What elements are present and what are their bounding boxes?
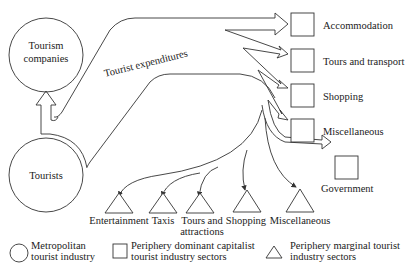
legend-metropolitan-1: Metropolitan xyxy=(31,240,87,251)
legend-dominant-2: tourist industry sectors xyxy=(131,251,227,262)
tourism-flow-diagram: Tourism companies Tourists Tourist expen… xyxy=(0,0,413,276)
marginal-sectors: Entertainment Taxis Tours and attraction… xyxy=(89,189,330,237)
legend-triangle-icon xyxy=(266,246,282,258)
marginal-shopping: Shopping xyxy=(226,215,267,226)
shopping-triangle xyxy=(233,190,261,212)
sector-shopping: Shopping xyxy=(323,91,364,102)
government-label: Government xyxy=(321,183,374,194)
marginal-entertainment: Entertainment xyxy=(89,215,149,226)
sector-accommodation: Accommodation xyxy=(323,20,394,31)
taxis-triangle xyxy=(149,193,177,213)
marginal-sector-arrows xyxy=(119,110,296,196)
tourism-companies-label-1: Tourism xyxy=(29,40,64,51)
legend-dominant-1: Periphery dominant capitalist xyxy=(131,240,255,251)
government-box xyxy=(335,156,358,179)
tourists-label: Tourists xyxy=(29,170,63,181)
shopping-box xyxy=(291,84,314,107)
legend-circle-icon xyxy=(10,244,28,262)
tourism-companies-node: Tourism companies xyxy=(9,18,83,92)
legend-marginal-1: Periphery marginal tourist xyxy=(290,240,400,251)
tours-transport-box xyxy=(291,49,314,72)
miscellaneous-triangle xyxy=(286,189,314,212)
expenditure-flow-upper: Tourist expenditures xyxy=(54,13,288,167)
sector-miscellaneous: Miscellaneous xyxy=(323,126,384,137)
miscellaneous-box xyxy=(291,119,314,142)
marginal-tours-attractions-1: Tours and xyxy=(181,215,223,226)
accommodation-box xyxy=(291,13,314,36)
dominant-sector-arrows xyxy=(225,30,331,149)
legend-square-icon xyxy=(113,244,127,258)
marginal-miscellaneous: Miscellaneous xyxy=(270,215,331,226)
legend-marginal-2: industry sectors xyxy=(290,251,356,262)
sector-tours-transport: Tours and transport xyxy=(323,56,405,67)
entertainment-triangle xyxy=(105,193,133,213)
marginal-taxis: Taxis xyxy=(152,215,175,226)
dominant-sectors: Accommodation Tours and transport Shoppi… xyxy=(291,13,405,194)
tours-attractions-triangle xyxy=(186,193,214,213)
legend: Metropolitan tourist industry Periphery … xyxy=(10,240,400,262)
tourists-node: Tourists xyxy=(9,138,83,212)
tourism-companies-label-2: companies xyxy=(24,53,69,64)
legend-metropolitan-2: tourist industry xyxy=(31,251,96,262)
marginal-tours-attractions-2: attractions xyxy=(180,226,224,237)
